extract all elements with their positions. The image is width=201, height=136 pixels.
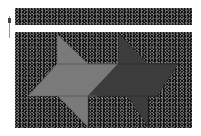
shapes-canvas: [0, 0, 201, 136]
